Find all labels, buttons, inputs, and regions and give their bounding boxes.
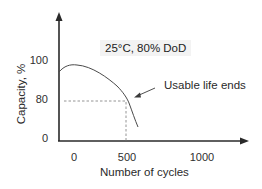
x-tick-1000: 1000 (182, 151, 222, 163)
y-axis-arrow-icon (56, 12, 63, 21)
capacity-chart: 25°C, 80% DoD Capacity, % Number of cycl… (0, 0, 262, 189)
x-tick-0: 0 (54, 151, 94, 163)
usable-life-annotation: Usable life ends (164, 79, 246, 91)
y-tick-80: 80 (18, 93, 48, 105)
x-axis-arrow-icon (240, 138, 249, 145)
y-tick-0: 0 (18, 132, 48, 144)
y-tick-100: 100 (18, 54, 48, 66)
x-tick-500: 500 (107, 151, 147, 163)
annotation-arrow-icon (134, 93, 141, 98)
chart-title: 25°C, 80% DoD (100, 40, 191, 56)
x-axis-label: Number of cycles (100, 166, 189, 178)
